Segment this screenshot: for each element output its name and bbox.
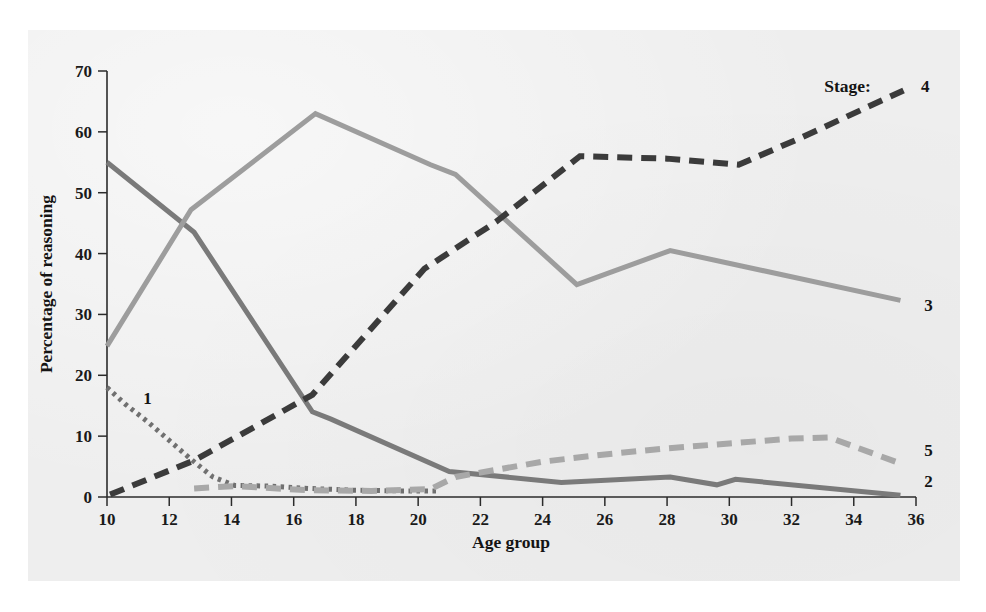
y-tick-label: 20 (75, 366, 92, 385)
y-tick-label: 30 (75, 305, 92, 324)
data-series-group (107, 90, 904, 495)
y-tick-label: 70 (75, 62, 92, 81)
x-tick-label: 32 (783, 510, 800, 529)
line-chart: 010203040506070 101214161820222426283032… (0, 0, 986, 612)
y-axis-ticks: 010203040506070 (75, 62, 107, 507)
series-end-label-1: 1 (143, 389, 152, 408)
x-tick-label: 36 (908, 510, 925, 529)
x-tick-label: 12 (161, 510, 178, 529)
x-axis-title: Age group (472, 532, 550, 552)
series-end-label-4: 4 (921, 77, 930, 96)
y-tick-label: 60 (75, 123, 92, 142)
x-tick-label: 24 (534, 510, 552, 529)
x-tick-label: 20 (410, 510, 427, 529)
figure-root: 010203040506070 101214161820222426283032… (0, 0, 986, 612)
series-line-4 (110, 90, 903, 494)
y-tick-label: 10 (75, 427, 92, 446)
y-tick-label: 50 (75, 184, 92, 203)
x-axis-ticks: 1012141618202224262830323436 (99, 497, 925, 529)
series-end-label-5: 5 (924, 441, 933, 460)
series-end-label-3: 3 (924, 296, 933, 315)
series-end-label-2: 2 (924, 472, 933, 491)
x-tick-label: 26 (596, 510, 613, 529)
y-tick-label: 0 (84, 488, 93, 507)
x-tick-label: 18 (347, 510, 364, 529)
x-tick-label: 14 (223, 510, 241, 529)
x-tick-label: 22 (472, 510, 489, 529)
x-tick-label: 28 (659, 510, 676, 529)
y-axis-title: Percentage of reasoning (36, 195, 56, 373)
x-tick-label: 10 (99, 510, 116, 529)
x-tick-label: 16 (285, 510, 302, 529)
x-tick-label: 34 (845, 510, 863, 529)
series-line-3 (107, 114, 900, 346)
x-tick-label: 30 (721, 510, 738, 529)
y-tick-label: 40 (75, 245, 92, 264)
legend-title-label: Stage: (824, 76, 871, 96)
